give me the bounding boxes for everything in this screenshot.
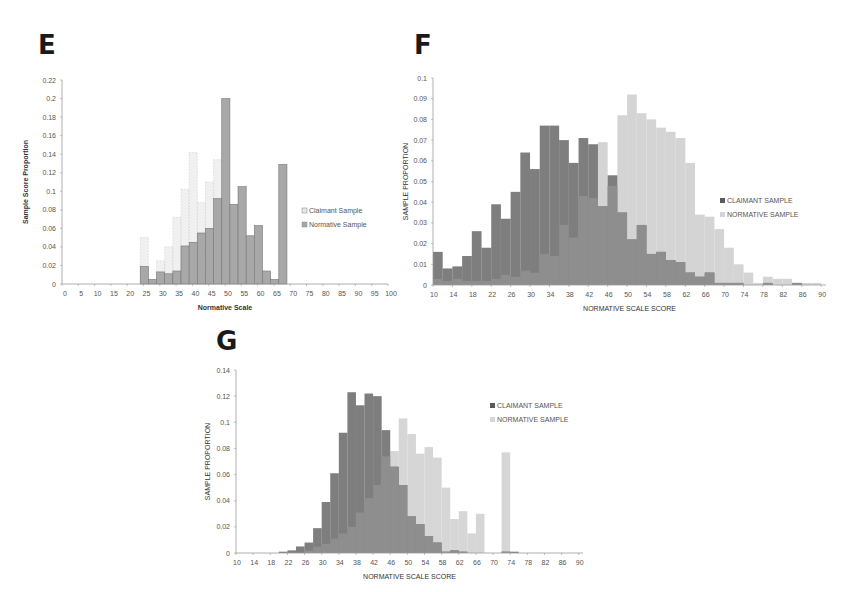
bar [296, 546, 305, 553]
x-tick-label: 58 [663, 291, 671, 298]
bar [181, 246, 189, 284]
x-tick-label: 85 [338, 290, 346, 297]
x-tick-label: 34 [547, 291, 555, 298]
bar [205, 228, 213, 284]
y-tick-label: 0.07 [413, 137, 427, 144]
bar-overlap [608, 186, 618, 285]
x-tick-label: 45 [208, 290, 216, 297]
charts-canvas: 00.020.040.060.080.10.120.140.160.180.20… [0, 0, 858, 592]
bar-overlap [501, 275, 511, 285]
x-tick-label: 60 [257, 290, 265, 297]
x-tick-label: 70 [289, 290, 297, 297]
bar-overlap [452, 279, 462, 285]
y-tick-label: 0.04 [42, 243, 56, 250]
x-tick-label: 14 [250, 559, 258, 566]
bar [491, 204, 501, 285]
x-tick-label: 14 [450, 291, 458, 298]
bar-overlap [646, 254, 656, 285]
bar-overlap [491, 279, 501, 285]
y-tick-label: 0.02 [413, 240, 427, 247]
y-tick-label: 0 [52, 281, 56, 288]
x-tick-label: 26 [302, 559, 310, 566]
bar [197, 233, 205, 284]
x-tick-label: 54 [422, 559, 430, 566]
bar-overlap [559, 225, 569, 285]
legend-label: CLAIMANT SAMPLE [727, 197, 793, 204]
x-tick-label: 40 [192, 290, 200, 297]
y-tick-label: 0.08 [216, 445, 230, 452]
bar-overlap [637, 225, 647, 285]
bar [442, 488, 451, 553]
x-tick-label: 22 [285, 559, 293, 566]
bar-overlap [365, 498, 374, 553]
y-tick-label: 0 [226, 550, 230, 557]
bar [744, 273, 754, 285]
y-tick-label: 0.06 [216, 471, 230, 478]
x-tick-label: 30 [527, 291, 535, 298]
x-axis-label: NORMATIVE SCALE SCORE [363, 573, 456, 580]
bar-overlap [627, 239, 637, 285]
y-tick-label: 0.22 [42, 77, 56, 84]
bar-overlap [598, 206, 608, 285]
y-tick-label: 0.03 [413, 219, 427, 226]
bar-overlap [685, 273, 695, 285]
x-tick-label: 10 [430, 291, 438, 298]
bar-overlap [443, 281, 453, 285]
x-tick-label: 46 [387, 559, 395, 566]
y-tick-label: 0.02 [216, 523, 230, 530]
x-tick-label: 18 [267, 559, 275, 566]
bar [157, 272, 165, 284]
bar-overlap [549, 256, 559, 285]
y-tick-label: 0.1 [220, 419, 230, 426]
x-tick-label: 82 [779, 291, 787, 298]
bar [476, 514, 485, 553]
bar-overlap [416, 524, 425, 553]
x-tick-label: 20 [126, 290, 134, 297]
x-tick-label: 10 [94, 290, 102, 297]
chart-f: 00.010.020.030.040.050.060.070.080.090.1… [402, 75, 826, 313]
y-tick-label: 0.04 [216, 497, 230, 504]
y-tick-label: 0.16 [42, 132, 56, 139]
x-tick-label: 65 [273, 290, 281, 297]
x-tick-label: 75 [306, 290, 314, 297]
bar-overlap [347, 527, 356, 553]
bar [173, 271, 181, 284]
legend-swatch [490, 417, 495, 422]
x-tick-label: 42 [370, 559, 378, 566]
y-tick-label: 0.08 [413, 116, 427, 123]
bar-overlap [666, 260, 676, 285]
x-tick-label: 50 [224, 290, 232, 297]
bar [165, 274, 173, 284]
bar-overlap [676, 262, 686, 285]
bar-overlap [356, 512, 365, 553]
bar [271, 279, 279, 284]
bar [462, 256, 472, 285]
bar [467, 533, 476, 553]
x-tick-label: 58 [439, 559, 447, 566]
x-tick-label: 74 [741, 291, 749, 298]
bar-overlap [511, 277, 521, 285]
x-tick-label: 78 [760, 291, 768, 298]
bar-overlap [462, 281, 472, 285]
bar [433, 458, 442, 553]
bar [782, 279, 792, 285]
bar-overlap [579, 196, 589, 285]
y-tick-label: 0.14 [42, 151, 56, 158]
y-tick-label: 0.14 [216, 367, 230, 374]
bar [262, 271, 270, 284]
x-tick-label: 90 [818, 291, 826, 298]
bar [482, 248, 492, 285]
x-tick-label: 30 [319, 559, 327, 566]
chart-e: 00.020.040.060.080.10.120.140.160.180.20… [22, 77, 397, 312]
bar [230, 204, 238, 284]
x-tick-label: 86 [559, 559, 567, 566]
bar-overlap [433, 543, 442, 553]
legend-label: CLAIMANT SAMPLE [497, 402, 563, 409]
x-tick-label: 55 [240, 290, 248, 297]
y-tick-label: 0.1 [417, 75, 427, 82]
x-tick-label: 34 [336, 559, 344, 566]
legend-swatch [720, 198, 725, 203]
y-axis-label: SAMPLE PROPORTION [402, 143, 409, 220]
bar [148, 279, 156, 284]
x-tick-label: 62 [682, 291, 690, 298]
